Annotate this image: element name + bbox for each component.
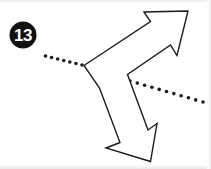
dotted-line-dot <box>201 100 205 104</box>
dotted-line-dot <box>157 88 161 92</box>
dotted-line-dot <box>172 92 176 96</box>
dotted-line-dot <box>74 62 78 66</box>
dotted-line-dot <box>44 54 48 58</box>
dotted-line-dot <box>143 83 147 87</box>
right-edge-shading <box>207 0 211 169</box>
badge-number-label: 13 <box>14 26 32 45</box>
dotted-line-dot <box>179 94 183 98</box>
dotted-line-dot <box>62 59 66 63</box>
dotted-line-dot <box>68 60 72 64</box>
figure-container: 13 <box>0 0 211 169</box>
dotted-line-dot <box>50 56 54 60</box>
item-number-badge: 13 <box>10 22 37 49</box>
diagram-canvas: 13 <box>0 0 211 169</box>
top-edge-shading <box>0 0 211 3</box>
bottom-edge-shading <box>0 165 211 169</box>
dotted-line-dot <box>56 57 60 61</box>
dotted-line-dot <box>80 63 84 67</box>
dotted-line-dot <box>150 86 154 90</box>
dotted-line-dot <box>165 90 169 94</box>
dotted-line-dot <box>187 96 191 100</box>
dotted-line-dot <box>136 81 140 85</box>
dotted-line-dot <box>194 98 198 102</box>
